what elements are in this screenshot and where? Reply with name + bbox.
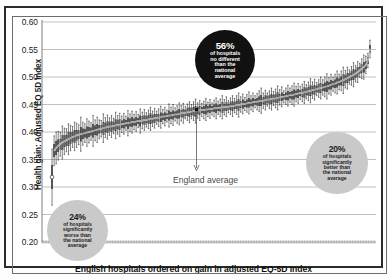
callout-no-different: 56% of hospitals no different than the n…: [195, 30, 255, 90]
y-tick-label: 0.50: [22, 72, 39, 82]
x-axis-title: English hospitals ordered on gain in adj…: [6, 264, 381, 274]
callout-worse-l5: average: [68, 243, 87, 248]
y-tick-label: 0.40: [22, 127, 39, 137]
england-average-arrow: [194, 108, 199, 170]
figure-root: Health gain: Adjusted EQ 5D Index 0.600.…: [0, 0, 389, 279]
y-tick-label: 0.20: [22, 237, 39, 247]
y-tick-label: 0.45: [22, 100, 39, 110]
y-tick-label: 0.25: [22, 210, 39, 220]
y-tick-label: 0.55: [22, 45, 39, 55]
y-tick-label: 0.60: [22, 17, 39, 27]
callout-no-different-l5: average: [215, 74, 235, 80]
callout-better-l5: average: [327, 176, 346, 181]
callout-worse: 24% of hospitals significantly worse tha…: [47, 200, 108, 261]
callout-better: 20% of hospitals significantly better th…: [306, 132, 368, 194]
y-tick-label: 0.30: [22, 182, 39, 192]
callout-no-different-pct: 56%: [216, 41, 235, 51]
chart-frame: Health gain: Adjusted EQ 5D Index 0.600.…: [4, 6, 383, 268]
england-average-label: England average: [173, 175, 238, 185]
y-tick-label: 0.35: [22, 155, 39, 165]
